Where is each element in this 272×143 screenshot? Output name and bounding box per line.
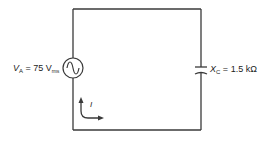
current-symbol: I bbox=[90, 100, 92, 109]
source-equals: = bbox=[23, 63, 33, 73]
source-unit-subscript: rms bbox=[52, 69, 60, 74]
circuit-wires bbox=[73, 9, 201, 130]
source-value: 75 V bbox=[33, 63, 52, 73]
capacitor-reactance-label: XC = 1.5 kΩ bbox=[210, 65, 257, 75]
capacitor-equals: = bbox=[220, 64, 230, 74]
source-voltage-label: VA = 75 Vrms bbox=[13, 64, 59, 75]
capacitor-value: 1.5 kΩ bbox=[231, 64, 257, 74]
ac-source-icon bbox=[63, 58, 83, 78]
capacitor-icon bbox=[195, 67, 207, 74]
current-label: I bbox=[90, 101, 92, 109]
